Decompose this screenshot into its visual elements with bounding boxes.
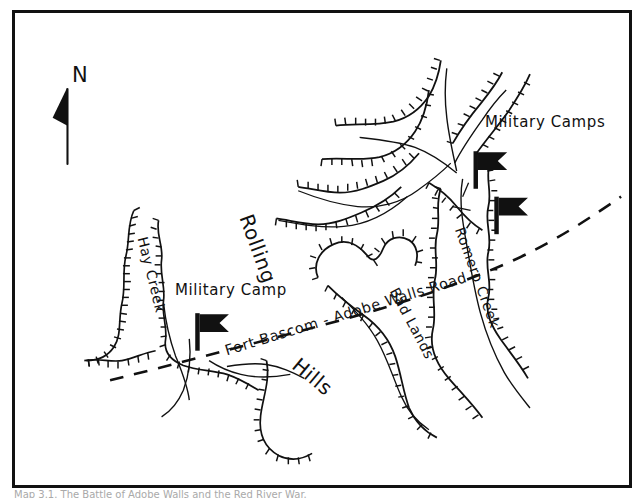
south-creek-line-b (209, 361, 290, 377)
military-camp-flag-northeast[interactable] (474, 151, 508, 189)
north-trunk-channel (445, 68, 456, 171)
romero-creek-west-bluff (425, 187, 482, 419)
map-figure: N Military Camps Military Camp Rolling H… (0, 0, 644, 498)
north-branch-west-channel (360, 137, 457, 173)
south-creek-line-c (227, 364, 304, 379)
north-arrow-icon (53, 88, 68, 164)
fort-bascom-adobe-walls-road[interactable] (110, 197, 621, 381)
figure-caption: Map 3.1. The Battle of Adobe Walls and t… (14, 489, 614, 498)
military-camp-flag-west[interactable] (195, 313, 229, 351)
map-drawing-canvas (15, 13, 629, 485)
southwest-tributary-bluff (84, 351, 155, 369)
north-letter-label: N (72, 63, 88, 87)
ne-arm-east-bluff (476, 74, 529, 156)
south-center-arroyo-bluff (254, 359, 312, 465)
bad-lands-north-bluff (309, 229, 423, 279)
military-camp-flag-southeast[interactable] (494, 197, 528, 235)
map-frame-border: N Military Camps Military Camp Rolling H… (12, 10, 632, 488)
nw-arm-bluff (335, 58, 441, 125)
ne-arm-west-bluff (447, 72, 502, 143)
hay-creek-west-bluff (86, 208, 139, 367)
